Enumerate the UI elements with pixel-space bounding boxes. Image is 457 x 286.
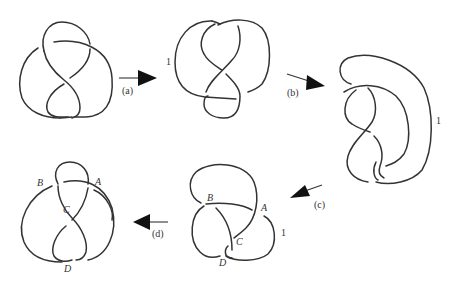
- knot-3-marker-1: 1: [436, 116, 441, 126]
- arrow-c-label: (c): [314, 200, 325, 210]
- knot-5-label-B: B: [37, 178, 43, 188]
- knot-4-label-A: A: [261, 203, 267, 213]
- arrow-a: [119, 70, 157, 86]
- knot-2-marker-1: 1: [166, 57, 171, 67]
- knot-2: [175, 20, 270, 118]
- knot-1: [20, 22, 113, 118]
- arrow-d-label: (d): [152, 229, 164, 239]
- arrow-b-label: (b): [287, 88, 299, 98]
- knot-5-label-C: C: [63, 205, 70, 215]
- knot-4-label-B: B: [207, 193, 213, 203]
- knot-5-label-D: D: [64, 264, 71, 274]
- knot-3: [340, 56, 431, 184]
- knot-4-label-D: D: [219, 258, 226, 268]
- knot-sequence-figure: [0, 0, 457, 286]
- arrow-a-label: (a): [122, 86, 133, 96]
- knot-5-label-A: A: [95, 177, 101, 187]
- knot-4-marker-1: 1: [281, 228, 286, 238]
- knot-4-label-C: C: [236, 237, 243, 247]
- arrow-c: [290, 185, 322, 198]
